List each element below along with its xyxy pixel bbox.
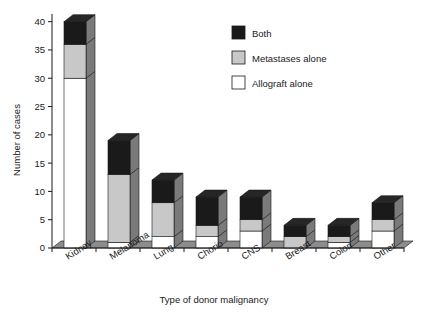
legend-label: Metastases alone xyxy=(252,53,326,64)
legend-swatch xyxy=(232,51,245,64)
y-tick-label: 30 xyxy=(34,73,45,84)
bar-chart: 0510152025303540 KidneyMelanomaLungChori… xyxy=(0,0,429,314)
bar-group xyxy=(196,190,227,248)
legend-swatch xyxy=(232,26,245,39)
bar-group xyxy=(240,190,271,248)
bar-segment xyxy=(108,167,139,242)
chart-legend: BothMetastases aloneAllograft alone xyxy=(232,26,326,89)
y-axis: 0510152025303540 xyxy=(34,14,52,253)
bar-group xyxy=(64,15,95,248)
y-tick-label: 5 xyxy=(40,214,45,225)
legend-entry: Allograft alone xyxy=(232,76,313,89)
y-tick-label: 20 xyxy=(34,129,45,140)
y-tick-label: 35 xyxy=(34,44,45,55)
bar-group xyxy=(372,196,403,248)
chart-floor xyxy=(52,241,413,248)
bar-group xyxy=(152,173,183,248)
y-tick-label: 0 xyxy=(40,242,45,253)
y-axis-title: Number of cases xyxy=(11,104,22,176)
legend-swatch xyxy=(232,76,245,89)
bar-group xyxy=(108,133,139,248)
chart-canvas: 0510152025303540 KidneyMelanomaLungChori… xyxy=(0,0,429,314)
bar-segment xyxy=(64,71,95,248)
legend-entry: Both xyxy=(232,26,272,39)
y-tick-label: 40 xyxy=(34,16,45,27)
legend-entry: Metastases alone xyxy=(232,51,326,64)
y-tick-label: 15 xyxy=(34,158,45,169)
legend-label: Both xyxy=(252,28,272,39)
legend-label: Allograft alone xyxy=(252,78,313,89)
y-tick-label: 10 xyxy=(34,186,45,197)
x-axis-title: Type of donor malignancy xyxy=(160,294,269,305)
bar-series-group xyxy=(64,15,403,248)
y-tick-label: 25 xyxy=(34,101,45,112)
